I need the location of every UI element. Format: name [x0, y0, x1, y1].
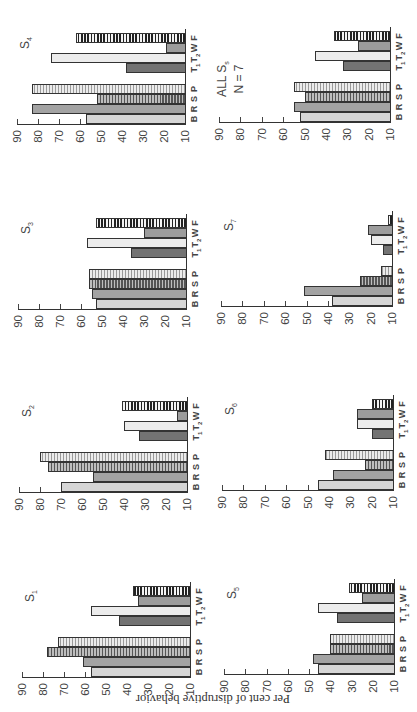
panel-title: S6 — [224, 379, 241, 439]
y-tick — [286, 485, 287, 490]
bar-r — [32, 104, 186, 114]
y-tick — [81, 304, 82, 309]
y-tick-label: 10 — [384, 128, 396, 150]
y-tick — [222, 485, 223, 490]
bar-t1 — [337, 613, 395, 623]
y-tick — [19, 487, 20, 492]
y-tick — [283, 117, 284, 122]
category-label: P — [194, 636, 204, 648]
y-tick-label: 50 — [96, 315, 108, 337]
y-tick — [328, 301, 329, 306]
y-tick-label: 50 — [301, 312, 313, 334]
bar-w — [357, 409, 394, 419]
y-tick — [245, 669, 246, 674]
y-tick-label: 40 — [322, 312, 334, 334]
bar-s — [305, 92, 392, 102]
y-tick-label: 40 — [121, 683, 133, 705]
y-tick — [285, 301, 286, 306]
bar-f — [349, 583, 395, 593]
y-tick-label: 80 — [37, 683, 49, 705]
category-label: P — [396, 265, 406, 277]
bar-s — [47, 647, 191, 657]
y-tick-label: 90 — [12, 315, 24, 337]
bar-t2 — [91, 606, 191, 616]
y-tick-label: 40 — [118, 498, 130, 520]
y-tick-label: 50 — [303, 680, 315, 702]
y-tick-label: 60 — [79, 683, 91, 705]
bar-t2 — [318, 603, 396, 613]
y-tick-label: 90 — [16, 683, 28, 705]
y-tick — [22, 672, 23, 677]
y-tick-label: 20 — [160, 498, 172, 520]
y-tick-label: 70 — [54, 315, 66, 337]
y-tick-label: 60 — [76, 498, 88, 520]
bar-b — [61, 482, 188, 492]
bar-f — [122, 401, 188, 411]
bar-t2 — [51, 53, 186, 63]
y-tick-label: 60 — [279, 312, 291, 334]
y-tick-label: 90 — [13, 498, 25, 520]
bar-p — [32, 84, 186, 94]
y-tick — [224, 669, 225, 674]
bar-t1 — [383, 245, 393, 255]
bar-f — [334, 31, 391, 41]
bar-b — [332, 296, 393, 306]
y-tick-label: 40 — [117, 315, 129, 337]
bar-t1 — [343, 61, 391, 71]
y-tick-label: 80 — [234, 128, 246, 150]
panel-title: S7 — [223, 195, 240, 255]
y-tick-label: 80 — [32, 130, 44, 152]
y-tick — [38, 119, 39, 124]
bar-r — [83, 657, 191, 667]
y-tick-label: 10 — [388, 680, 400, 702]
y-tick-label: 90 — [216, 496, 228, 518]
y-tick-label: 90 — [215, 312, 227, 334]
bar-p — [325, 450, 394, 460]
bar-s — [360, 276, 393, 286]
category-label: F — [191, 400, 201, 412]
y-tick-label: 50 — [100, 683, 112, 705]
y-tick — [39, 304, 40, 309]
category-label: P — [191, 451, 201, 463]
bar-t1 — [139, 431, 188, 441]
y-tick — [17, 119, 18, 124]
category-label: F — [394, 30, 404, 42]
category-label: F — [397, 398, 407, 410]
y-tick-label: 60 — [74, 130, 86, 152]
panel-title: S4 — [19, 13, 36, 73]
y-tick-label: 50 — [302, 496, 314, 518]
bar-t1 — [126, 63, 186, 73]
y-tick-label: 30 — [138, 315, 150, 337]
bar-b — [318, 480, 394, 490]
category-label: P — [190, 268, 200, 280]
category-label: P — [398, 633, 408, 645]
figure-page: 102030405060708090BRSPT1T2WFS11020304050… — [0, 0, 417, 712]
bar-f — [76, 33, 186, 43]
y-tick-label: 80 — [237, 496, 249, 518]
y-tick-label: 30 — [137, 130, 149, 152]
category-label: F — [190, 217, 200, 229]
y-tick-label: 20 — [365, 312, 377, 334]
y-tick — [307, 301, 308, 306]
y-tick — [240, 117, 241, 122]
y-tick — [43, 672, 44, 677]
y-tick-label: 70 — [259, 496, 271, 518]
y-tick — [80, 119, 81, 124]
y-tick-label: 50 — [299, 128, 311, 150]
bar-p — [40, 452, 188, 462]
y-tick-label: 40 — [323, 496, 335, 518]
bar-b — [96, 299, 187, 309]
y-tick-label: 70 — [55, 498, 67, 520]
bar-t1 — [131, 248, 187, 258]
bar-r — [304, 286, 393, 296]
bar-w — [362, 593, 395, 603]
bar-s — [97, 94, 186, 104]
y-tick — [243, 485, 244, 490]
bar-r — [92, 289, 188, 299]
bar-p — [330, 634, 395, 644]
y-tick-label: 70 — [258, 312, 270, 334]
y-tick-label: 20 — [366, 496, 378, 518]
panel-title: S5 — [226, 563, 243, 623]
bar-b — [86, 114, 186, 124]
y-tick-label: 60 — [277, 128, 289, 150]
